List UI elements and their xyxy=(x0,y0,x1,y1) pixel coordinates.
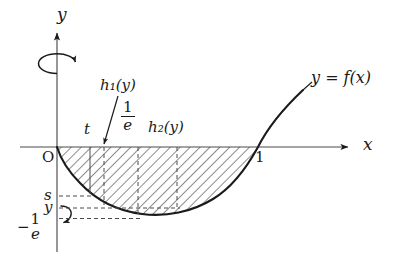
minus-sign: − xyxy=(17,220,30,235)
shaded-region xyxy=(57,147,258,215)
x-mark-t-label: t xyxy=(84,122,90,137)
h1-annotation: h₁(y) xyxy=(100,78,136,93)
x-intercept-label: 1 xyxy=(255,150,265,165)
origin-label: O xyxy=(42,150,54,165)
one-over-e-label: 1 e xyxy=(121,100,135,133)
h1-leader-arrow xyxy=(104,96,118,144)
one-over-e-denominator: e xyxy=(121,118,134,133)
x-axis-label: x xyxy=(363,136,373,153)
figure-canvas xyxy=(0,0,400,267)
h2-annotation: h₂(y) xyxy=(148,120,184,135)
neg-one-over-e-fraction: 1 e xyxy=(31,212,41,242)
neg-one-over-e-label: − 1 e xyxy=(17,212,40,242)
curve-equation-label: y = f(x) xyxy=(311,70,371,86)
y-axis-label: y xyxy=(57,6,67,23)
y-mark-y-label: y xyxy=(44,200,52,215)
neg-one-over-e-denominator: e xyxy=(31,227,40,242)
math-figure: y x O t 1 1 e h₁(y) h₂(y) s y − 1 e y = … xyxy=(0,0,400,267)
one-over-e-numerator: 1 xyxy=(121,100,135,115)
